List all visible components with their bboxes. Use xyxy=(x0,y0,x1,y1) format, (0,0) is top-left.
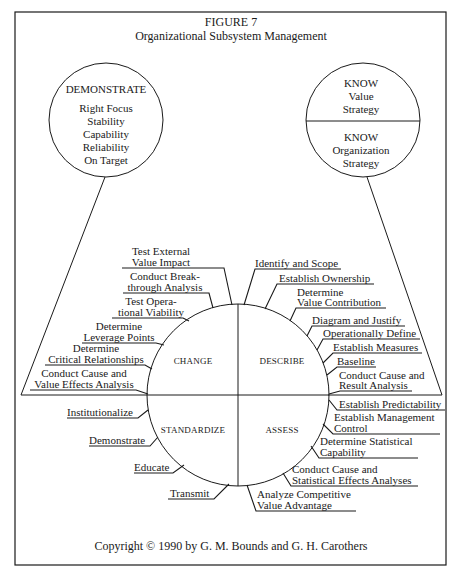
quadrant-change: CHANGE xyxy=(174,356,213,366)
demonstrate-heading: DEMONSTRATE xyxy=(66,83,147,95)
demonstrate-item: Capability xyxy=(83,128,129,140)
assess-step: Conduct Cause and Statistical Effects An… xyxy=(283,463,418,486)
svg-text:Critical Relationships: Critical Relationships xyxy=(48,353,144,365)
svg-text:Capability: Capability xyxy=(320,446,366,458)
know-bottom-line1: Organization xyxy=(332,144,390,156)
standardize-step: Educate xyxy=(134,461,184,473)
svg-text:Value Impact: Value Impact xyxy=(132,256,190,268)
figure-title: Organizational Subsystem Management xyxy=(135,29,327,43)
quadrant-standardize: STANDARDIZE xyxy=(161,425,226,435)
change-step: Determine Critical Relationships xyxy=(45,342,152,369)
svg-text:Diagram and Justify: Diagram and Justify xyxy=(312,314,402,326)
svg-text:tional Viability: tional Viability xyxy=(118,306,185,318)
know-bottom-line2: Strategy xyxy=(343,157,380,169)
assess-step: Determine Statistical Capability xyxy=(311,435,418,458)
process-wheel: CHANGE DESCRIBE STANDARDIZE ASSESS xyxy=(147,304,329,486)
change-steps: Test External Value Impact Conduct Break… xyxy=(30,245,232,394)
copyright-notice: Copyright © 1990 by G. M. Bounds and G. … xyxy=(94,539,367,553)
know-bottom-heading: KNOW xyxy=(344,131,379,143)
svg-text:Educate: Educate xyxy=(134,461,170,473)
standardize-step: Demonstrate xyxy=(89,434,158,446)
svg-text:Identify and Scope: Identify and Scope xyxy=(255,257,338,269)
svg-text:through Analysis: through Analysis xyxy=(128,281,203,293)
demonstrate-item: On Target xyxy=(84,154,128,166)
svg-text:Establish Predictability: Establish Predictability xyxy=(339,398,442,410)
figure-number: FIGURE 7 xyxy=(205,15,257,29)
know-top-line1: Value xyxy=(348,90,373,102)
svg-text:Result Analysis: Result Analysis xyxy=(339,379,408,391)
change-step: Test Opera- tional Viability xyxy=(112,295,189,321)
svg-text:Operationally Define: Operationally Define xyxy=(323,327,416,339)
quadrant-assess: ASSESS xyxy=(265,425,298,435)
demonstrate-item: Stability xyxy=(87,115,125,127)
assess-steps: Establish Predictability Establish Manag… xyxy=(247,398,445,511)
figure-canvas: FIGURE 7 Organizational Subsystem Manage… xyxy=(0,0,458,575)
standardize-step: Transmit xyxy=(168,484,229,499)
describe-steps: Identify and Scope Establish Ownership D… xyxy=(244,257,425,394)
assess-step: Analyze Competitive Value Advantage xyxy=(247,485,356,511)
change-step: Conduct Cause and Value Effects Analysis xyxy=(30,367,148,394)
standardize-steps: Institutionalize Demonstrate Educate Tra… xyxy=(67,406,229,499)
svg-text:Value Contribution: Value Contribution xyxy=(297,296,382,308)
standardize-step: Institutionalize xyxy=(67,406,148,418)
assess-step: Establish Management Control xyxy=(323,411,440,434)
quadrant-describe: DESCRIBE xyxy=(259,356,304,366)
svg-text:Establish Measures: Establish Measures xyxy=(333,341,418,353)
svg-text:Value Effects Analysis: Value Effects Analysis xyxy=(34,378,133,390)
svg-text:Value Advantage: Value Advantage xyxy=(257,499,332,511)
demonstrate-circle: DEMONSTRATE Right Focus Stability Capabi… xyxy=(49,63,163,177)
demonstrate-item: Right Focus xyxy=(79,102,132,114)
svg-text:Establish Ownership: Establish Ownership xyxy=(279,272,371,284)
know-circle: KNOW Value Strategy KNOW Organization St… xyxy=(306,63,420,177)
know-top-heading: KNOW xyxy=(344,77,379,89)
svg-text:Institutionalize: Institutionalize xyxy=(67,406,133,418)
describe-step: Conduct Cause and Result Analysis xyxy=(329,369,425,394)
assess-step: Establish Predictability xyxy=(329,398,445,410)
svg-text:Transmit: Transmit xyxy=(170,487,209,499)
demonstrate-item: Reliability xyxy=(83,141,130,153)
svg-text:Statistical Effects Analyses: Statistical Effects Analyses xyxy=(292,474,412,486)
svg-text:Control: Control xyxy=(334,422,368,434)
know-connector xyxy=(367,177,442,395)
svg-text:Baseline: Baseline xyxy=(337,355,375,367)
svg-text:Demonstrate: Demonstrate xyxy=(89,434,145,446)
know-top-line2: Strategy xyxy=(343,103,380,115)
